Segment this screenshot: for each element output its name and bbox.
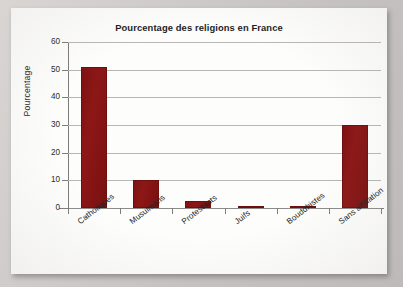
plot-area [68, 42, 381, 208]
x-tick-mark [329, 208, 330, 214]
y-tick-label: 30 [33, 120, 60, 130]
y-tick-label-text: 20 [34, 148, 60, 157]
y-tick-label: 20 [33, 148, 60, 158]
x-tick-label: Juifs [233, 208, 252, 226]
x-tick-mark [277, 208, 278, 214]
y-tick-label: 50 [33, 65, 60, 75]
bar [81, 67, 107, 208]
gridline [68, 153, 381, 154]
gridline [68, 42, 381, 43]
gridline [68, 180, 381, 181]
gridline [68, 97, 381, 98]
y-tick-label-text: 10 [34, 175, 60, 184]
y-tick-label: 10 [33, 175, 60, 185]
y-tick-label-text: 0 [34, 203, 60, 212]
y-tick-mark [62, 70, 68, 71]
bar [342, 125, 368, 208]
bar [238, 206, 264, 208]
x-tick-mark [120, 208, 121, 214]
y-tick-label-text: 60 [34, 37, 60, 46]
x-tick-mark [381, 208, 382, 214]
y-tick-label: 60 [33, 37, 60, 47]
x-tick-mark [68, 208, 69, 214]
x-tick-mark [172, 208, 173, 214]
y-tick-label: 40 [33, 92, 60, 102]
bar-chart: Pourcentage des religions en France Pour… [11, 8, 387, 274]
y-tick-label-text: 30 [34, 120, 60, 129]
gridline [68, 70, 381, 71]
y-tick-label: 0 [33, 203, 60, 213]
y-tick-label-text: 40 [34, 92, 60, 101]
y-tick-mark [62, 153, 68, 154]
gridline [68, 125, 381, 126]
y-tick-mark [62, 97, 68, 98]
y-axis-title: Pourcentage [22, 51, 32, 131]
x-tick-mark [225, 208, 226, 214]
y-tick-mark [62, 125, 68, 126]
chart-title: Pourcentage des religions en France [11, 22, 387, 33]
y-tick-mark [62, 42, 68, 43]
y-tick-label-text: 50 [34, 65, 60, 74]
y-tick-mark [62, 180, 68, 181]
